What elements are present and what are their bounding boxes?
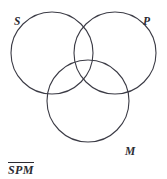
set-label-m: M <box>125 146 135 158</box>
venn-circles-canvas <box>0 0 167 179</box>
set-label-p: P <box>143 16 150 28</box>
venn-diagram-figure: S P M SPM <box>0 0 167 179</box>
set-label-s: S <box>14 16 21 28</box>
figure-caption: SPM <box>8 160 34 178</box>
caption-spm-overlined: SPM <box>8 162 34 178</box>
